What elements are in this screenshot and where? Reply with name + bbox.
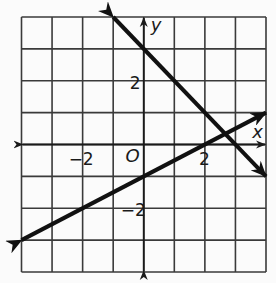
labels: x y O (125, 14, 263, 166)
y-axis-label: y (150, 14, 162, 35)
tick-label-x: 2 (199, 149, 210, 169)
tick-label-x: −2 (69, 149, 94, 169)
tick-label-y: 2 (130, 73, 141, 93)
tick-label-y: −2 (121, 200, 146, 220)
x-axis-label: x (251, 121, 263, 142)
origin-label: O (125, 145, 139, 166)
coordinate-graph: x y O −222−2 (0, 0, 276, 283)
axes (23, 18, 266, 271)
